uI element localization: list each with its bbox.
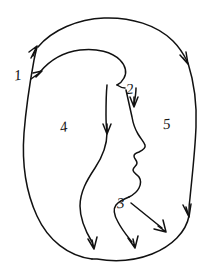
label-4: 4 xyxy=(59,119,69,135)
neck-back-contour xyxy=(80,133,107,242)
arrow-shaft-3 xyxy=(131,203,162,228)
oval-left-contour xyxy=(23,47,92,259)
hairline-hook xyxy=(117,85,125,88)
oval-bottom-contour xyxy=(92,216,189,261)
back-of-head-contour xyxy=(106,85,107,130)
profile-oval-drawing xyxy=(0,0,215,274)
arrowhead-hairline xyxy=(31,71,42,79)
label-3: 3 xyxy=(116,196,125,211)
oval-right-contour xyxy=(188,63,196,213)
face-profile-contour xyxy=(126,90,145,197)
hairline-contour xyxy=(40,49,126,85)
arrowhead-2 xyxy=(130,97,138,107)
label-5: 5 xyxy=(162,117,171,133)
arrowhead-oval-upper-right xyxy=(180,52,188,64)
diagram-canvas: 1 2 3 4 5 xyxy=(0,0,215,274)
label-2: 2 xyxy=(125,82,134,98)
